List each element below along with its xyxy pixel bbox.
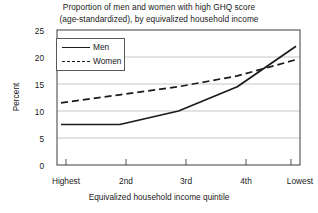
x-axis-ticks — [66, 159, 291, 165]
chart-figure: Proportion of men and women with high GH… — [0, 0, 318, 213]
legend-swatch-men — [62, 47, 90, 48]
legend-item-men: Men — [61, 41, 123, 54]
plot-area — [0, 0, 318, 213]
legend-swatch-women — [62, 61, 90, 62]
legend-item-women: Women — [61, 55, 123, 68]
chart-legend: Men Women — [56, 38, 125, 71]
legend-label-men: Men — [93, 42, 109, 52]
legend-label-women: Women — [93, 56, 121, 66]
